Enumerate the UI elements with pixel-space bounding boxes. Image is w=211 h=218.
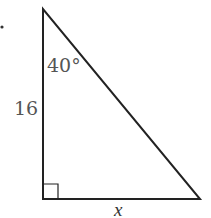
bullet-dot <box>0 25 3 28</box>
base-label: x <box>113 199 123 218</box>
triangle-diagram: 40° 16 x <box>0 0 211 218</box>
right-angle-marker <box>43 184 58 199</box>
angle-label: 40° <box>47 54 81 76</box>
side-label: 16 <box>14 97 38 119</box>
right-triangle <box>43 9 200 199</box>
